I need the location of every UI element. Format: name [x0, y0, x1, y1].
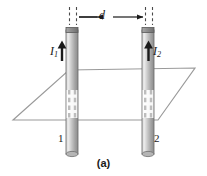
extension-lines-wire1 — [70, 7, 77, 25]
reference-plane — [13, 68, 195, 120]
wire-number-label-1: 1 — [58, 133, 64, 144]
figure-canvas — [0, 0, 207, 176]
separation-distance-label: d — [99, 9, 105, 21]
figure-caption: (a) — [0, 157, 207, 169]
wire2-hidden-segment — [143, 90, 154, 118]
current-arrow-1 — [58, 41, 67, 62]
wire-number-label-2: 2 — [154, 133, 160, 144]
current-label-1: I1 — [50, 45, 58, 59]
extension-lines-wire2 — [146, 7, 153, 25]
current-subscript-1: 1 — [54, 50, 58, 59]
current-subscript-2: 2 — [157, 50, 161, 59]
current-label-2: I2 — [153, 45, 161, 59]
physics-figure-two-parallel-wires: d I1 I2 1 2 (a) — [0, 0, 207, 176]
wire1-hidden-segment — [67, 90, 78, 118]
